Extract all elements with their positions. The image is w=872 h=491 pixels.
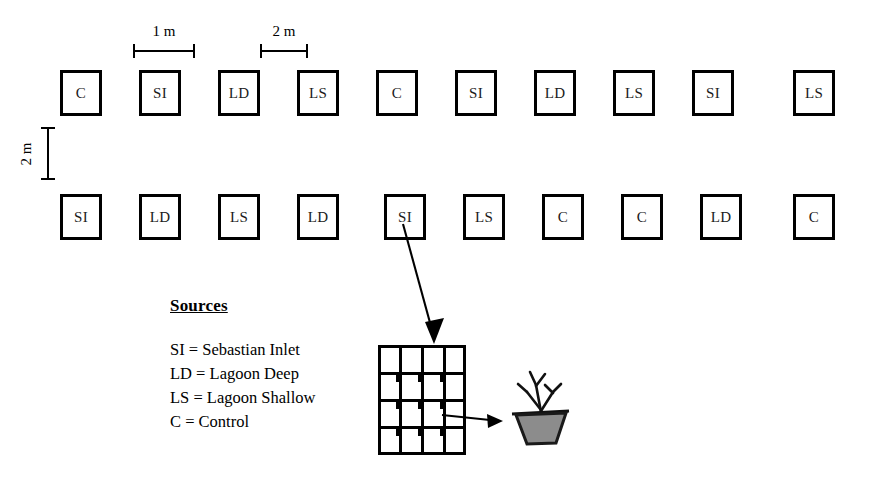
dimension-bar bbox=[260, 50, 308, 52]
plot-box-bottom-5[interactable]: SI bbox=[384, 194, 426, 240]
dimension-cap-left bbox=[133, 44, 135, 58]
tray-planting-unit-marker bbox=[418, 429, 424, 436]
seagrass-pot-icon bbox=[512, 372, 569, 444]
tray-planting-unit-marker bbox=[396, 402, 402, 409]
tray-planting-unit-marker bbox=[396, 429, 402, 436]
dimension-cap-left bbox=[260, 44, 262, 58]
dimension-bar bbox=[133, 50, 195, 52]
dimension-row-gap: 2 m bbox=[41, 127, 55, 180]
plot-box-bottom-8[interactable]: C bbox=[621, 194, 663, 240]
plot-box-bottom-1[interactable]: SI bbox=[60, 194, 102, 240]
callout-arrow-plot-to-tray bbox=[403, 224, 444, 344]
plot-box-bottom-4[interactable]: LD bbox=[297, 194, 339, 240]
dimension-plot-width: 1 m bbox=[133, 44, 195, 58]
plot-box-bottom-7[interactable]: C bbox=[542, 194, 584, 240]
plot-box-bottom-6[interactable]: LS bbox=[463, 194, 505, 240]
plot-box-bottom-2[interactable]: LD bbox=[139, 194, 181, 240]
dimension-cap-bottom bbox=[41, 178, 55, 180]
tray-planting-unit-marker bbox=[440, 429, 446, 436]
plot-box-top-7[interactable]: LD bbox=[534, 70, 576, 116]
dimension-bar bbox=[47, 127, 49, 180]
tray-planting-unit-marker bbox=[418, 375, 424, 382]
tray-planting-unit-marker bbox=[440, 402, 446, 409]
dimension-plot-gap: 2 m bbox=[260, 44, 308, 58]
plot-box-bottom-10[interactable]: C bbox=[793, 194, 835, 240]
plot-box-top-6[interactable]: SI bbox=[455, 70, 497, 116]
plot-box-top-8[interactable]: LS bbox=[613, 70, 655, 116]
legend-entry-ld: LD = Lagoon Deep bbox=[170, 362, 400, 386]
tray-planting-unit-marker bbox=[440, 375, 446, 382]
dimension-label-2m: 2 m bbox=[273, 23, 296, 40]
plot-box-top-9[interactable]: SI bbox=[692, 70, 734, 116]
plot-box-top-5[interactable]: C bbox=[376, 70, 418, 116]
legend-entry-c: C = Control bbox=[170, 410, 400, 434]
tray-planting-unit-marker bbox=[396, 375, 402, 382]
plot-box-top-4[interactable]: LS bbox=[297, 70, 339, 116]
plot-box-top-3[interactable]: LD bbox=[218, 70, 260, 116]
dimension-cap-top bbox=[41, 127, 55, 129]
legend-entry-ls: LS = Lagoon Shallow bbox=[170, 386, 400, 410]
figure-canvas: 1 m 2 m 2 m C SI LD LS C SI LD LS SI LS … bbox=[0, 0, 872, 491]
legend-title: Sources bbox=[170, 296, 400, 316]
dimension-label-2m-vertical: 2 m bbox=[18, 142, 35, 165]
legend: Sources SI = Sebastian Inlet LD = Lagoon… bbox=[170, 296, 400, 434]
plot-box-top-10[interactable]: LS bbox=[793, 70, 835, 116]
plot-box-bottom-9[interactable]: LD bbox=[700, 194, 742, 240]
plot-box-top-2[interactable]: SI bbox=[139, 70, 181, 116]
dimension-cap-right bbox=[193, 44, 195, 58]
dimension-cap-right bbox=[306, 44, 308, 58]
plot-box-bottom-3[interactable]: LS bbox=[218, 194, 260, 240]
plot-box-top-1[interactable]: C bbox=[60, 70, 102, 116]
dimension-label-1m: 1 m bbox=[153, 23, 176, 40]
detail-tray-grid bbox=[378, 345, 466, 455]
tray-planting-unit-marker bbox=[418, 402, 424, 409]
legend-entry-si: SI = Sebastian Inlet bbox=[170, 338, 400, 362]
